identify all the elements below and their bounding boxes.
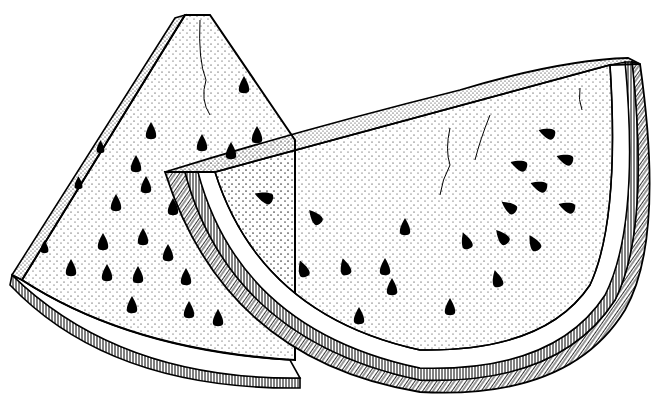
illustration-canvas: Black and white pen-and-ink stippled ill… [0,0,657,403]
watermelon-illustration [0,0,657,403]
